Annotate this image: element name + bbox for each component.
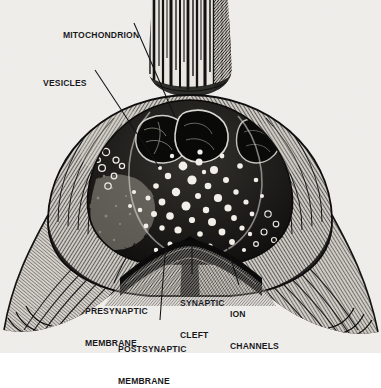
synaptic-cleft-label-line-1: SYNAPTIC: [180, 298, 225, 309]
mitochondrion-label: MITOCHONDRION: [63, 9, 139, 62]
synaptic-cleft-label-line-2: CLEFT: [180, 330, 225, 341]
vesicles-label-line-1: VESICLES: [43, 78, 87, 89]
ion-channels-label-line-1: ION: [230, 309, 279, 320]
postsynaptic-membrane-label-line-1: POSTSYNAPTIC: [118, 344, 187, 355]
ion-channels-label: ION CHANNELS: [230, 288, 279, 372]
postsynaptic-membrane-label-line-2: MEMBRANE: [118, 376, 187, 387]
vesicles-label: VESICLES: [43, 57, 87, 110]
axon-shaft: [145, 0, 237, 100]
postsynaptic-membrane-label: POSTSYNAPTIC MEMBRANE: [118, 323, 187, 388]
mitochondrion-label-line-1: MITOCHONDRION: [63, 30, 139, 41]
presynaptic-membrane-label-line-1: PRESYNAPTIC: [85, 306, 148, 317]
ion-channels-label-line-2: CHANNELS: [230, 341, 279, 352]
